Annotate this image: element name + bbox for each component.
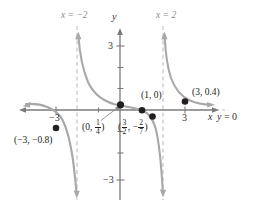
fraction-denominator: 4 — [95, 127, 101, 136]
label-open: (0, — [82, 122, 95, 132]
graph-canvas — [0, 0, 259, 210]
point-label-neg3: (−3, −0.8) — [14, 136, 52, 146]
asymptote-label-x-minus-2: x = −2 — [61, 11, 88, 21]
point-label-x-intercept: (1, 0) — [141, 91, 162, 101]
label-close: ) — [144, 122, 147, 132]
data-point-x-intercept — [139, 107, 146, 114]
curve-middle-arrow-up — [75, 32, 81, 40]
fraction-one-quarter: 14 — [95, 119, 101, 136]
rational-function-figure: x = −2 x = 2 y x y = 0 −3 3 3 −3 (−3, −0… — [0, 0, 259, 210]
data-point-pos3 — [182, 98, 189, 105]
y-axis-arrow-up — [117, 28, 123, 35]
y-axis-label: y — [112, 12, 116, 22]
x-tick-label-neg3: −3 — [49, 113, 60, 123]
asymptote-y-eq: = — [221, 111, 232, 122]
label-close: ) — [101, 122, 104, 132]
x-tick-label-3: 3 — [182, 113, 187, 123]
curve-right-arrow-up — [161, 32, 167, 40]
point-label-three-halves: (32, −27) — [118, 119, 148, 136]
data-point-y-intercept — [117, 101, 124, 108]
asymptote-label-y-0: y = 0 — [217, 112, 237, 122]
y-tick-label-3: 3 — [108, 41, 113, 51]
y-tick-label-neg3: −3 — [103, 175, 114, 185]
curve-left-arrow-far — [23, 102, 31, 108]
label-middle: , − — [128, 122, 138, 132]
fraction-numerator: 1 — [95, 119, 101, 127]
asymptote-y-rhs: 0 — [232, 111, 237, 122]
point-label-y-intercept: (0, 14) — [82, 119, 104, 136]
curve-middle-arrow-down — [160, 190, 166, 198]
fraction-numerator: 3 — [122, 119, 128, 127]
x-axis-arrow-left — [19, 107, 26, 113]
curve-left-arrow-down — [74, 191, 80, 199]
fraction-denominator: 2 — [122, 127, 128, 136]
asymptote-label-x-2: x = 2 — [156, 11, 176, 21]
x-axis-label: x — [208, 112, 212, 122]
data-point-neg3 — [53, 125, 60, 132]
data-point-three-halves — [149, 113, 156, 120]
fraction-three-halves: 32 — [122, 119, 128, 136]
point-label-pos3: (3, 0.4) — [192, 88, 220, 98]
curve-right-arrow-right — [207, 102, 215, 108]
